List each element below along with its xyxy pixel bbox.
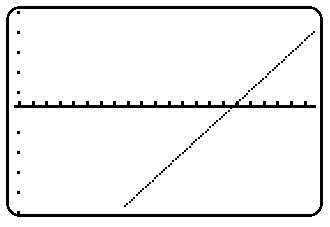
y-axis-tick — [17, 91, 20, 94]
screen-background — [0, 0, 330, 227]
x-axis-tick — [222, 101, 225, 106]
plot-point — [207, 129, 210, 132]
y-axis-tick — [17, 131, 20, 134]
x-axis-tick — [168, 101, 171, 106]
y-axis-tick — [17, 31, 20, 34]
calculator-screenshot — [0, 0, 330, 227]
x-axis-tick — [263, 101, 266, 106]
plot-point — [255, 84, 258, 87]
x-axis-tick — [249, 101, 252, 106]
x-axis-tick — [18, 101, 21, 106]
y-axis-tick — [17, 191, 20, 194]
plot-point — [301, 42, 304, 45]
plot-point — [172, 160, 175, 163]
plot-point — [152, 180, 155, 183]
plot-point — [265, 76, 268, 79]
x-axis-tick — [59, 101, 62, 106]
plot-point — [225, 112, 228, 115]
plot-point — [189, 146, 192, 149]
x-axis-tick — [181, 101, 184, 106]
plot-point — [216, 120, 219, 123]
plot-point — [133, 197, 136, 200]
x-axis-tick — [290, 101, 293, 106]
plot-point — [142, 188, 145, 191]
x-axis-tick — [113, 101, 116, 106]
plot-point — [313, 31, 316, 34]
plot-point — [269, 71, 272, 74]
plot-point — [248, 90, 251, 93]
x-axis-tick — [86, 101, 89, 106]
plot-point — [278, 63, 281, 66]
plot-point — [195, 139, 198, 142]
plot-point — [179, 154, 182, 157]
plot-point — [283, 59, 286, 62]
y-axis-tick — [17, 11, 20, 14]
calculator-display[interactable] — [0, 0, 330, 227]
x-axis-tick — [45, 101, 48, 106]
plot-point — [126, 203, 129, 206]
x-axis-tick — [100, 101, 103, 106]
x-axis-tick — [72, 101, 75, 106]
x-axis-tick — [140, 101, 143, 106]
plot-point — [170, 163, 173, 166]
y-axis-tick — [17, 151, 20, 154]
x-axis-tick — [154, 101, 157, 106]
x-axis-tick — [208, 101, 211, 106]
x-axis-tick — [304, 101, 307, 106]
y-axis-tick — [17, 211, 20, 214]
plot-point — [186, 148, 189, 151]
plot-point — [285, 56, 288, 59]
x-axis-tick — [32, 101, 35, 106]
plot-point — [149, 182, 152, 185]
x-axis-tick — [195, 101, 198, 106]
plot-point — [156, 175, 159, 178]
plot-point — [292, 50, 295, 53]
plot-point — [308, 35, 311, 38]
x-axis-tick — [127, 101, 130, 106]
plot-point — [232, 105, 235, 108]
y-axis-tick — [17, 51, 20, 54]
plot-point — [165, 167, 168, 170]
plot-point — [209, 126, 212, 129]
y-axis-tick — [17, 171, 20, 174]
plot-point — [246, 93, 249, 96]
plot-point — [262, 78, 265, 81]
plot-point — [228, 110, 231, 113]
x-axis-tick — [276, 101, 279, 106]
y-axis-tick — [17, 71, 20, 74]
plot-point — [239, 99, 242, 102]
plot-point — [202, 133, 205, 136]
